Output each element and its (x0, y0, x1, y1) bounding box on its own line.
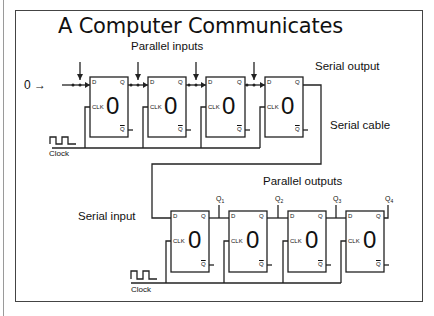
ff-tx3-qbar: Q (237, 126, 242, 132)
ff-tx4-d: D (267, 79, 271, 85)
ff-tx2-state: 0 (164, 92, 177, 120)
ff-tx1-d: D (92, 79, 96, 85)
ff-rx3-state: 0 (305, 226, 318, 254)
ff-rx3-qbar: Q (318, 261, 323, 267)
ff-rx2-d: D (231, 213, 235, 219)
ff-tx4-q: Q (295, 79, 300, 85)
ff-tx3-clk: CLK (208, 104, 220, 110)
ff-rx3-clk: CLK (290, 238, 302, 244)
ff-rx1-state: 0 (188, 226, 201, 254)
ff-rx2-q: Q (259, 213, 264, 219)
ff-rx2-qbar: Q (259, 261, 264, 267)
output-q3: Q3 (333, 195, 341, 204)
ff-rx3-q: Q (318, 213, 323, 219)
ff-rx2-state: 0 (246, 226, 259, 254)
ff-tx1-qbar: Q (120, 126, 125, 132)
ff-rx1-qbar: Q (201, 261, 206, 267)
output-q2: Q2 (275, 195, 283, 204)
ff-tx3-state: 0 (222, 92, 235, 120)
ff-rx1-q: Q (201, 213, 206, 219)
ff-rx4-state: 0 (363, 226, 376, 254)
ff-tx4-clk: CLK (267, 104, 279, 110)
ff-rx1-clk: CLK (173, 238, 185, 244)
ff-rx4-d: D (348, 213, 352, 219)
ff-tx2-d: D (150, 79, 154, 85)
ff-rx1-d: D (173, 213, 177, 219)
ff-tx1-clk: CLK (92, 104, 104, 110)
output-q1: Q1 (216, 195, 224, 204)
ff-rx4-clk: CLK (348, 238, 360, 244)
ff-tx3-d: D (208, 79, 212, 85)
ff-rx3-d: D (290, 213, 294, 219)
ff-rx2-clk: CLK (231, 238, 243, 244)
ff-tx1-state: 0 (106, 92, 119, 120)
ff-tx4-qbar: Q (295, 126, 300, 132)
shift-register-diagram (0, 0, 434, 316)
ff-rx4-qbar: Q (376, 261, 381, 267)
ff-tx3-q: Q (237, 79, 242, 85)
ff-tx2-clk: CLK (150, 104, 162, 110)
ff-tx2-qbar: Q (178, 126, 183, 132)
ff-tx4-state: 0 (281, 92, 294, 120)
clock-waveform-top (50, 137, 76, 144)
ff-tx1-q: Q (120, 79, 125, 85)
ff-tx2-q: Q (178, 79, 183, 85)
ff-rx4-q: Q (376, 213, 381, 219)
output-q4: Q4 (385, 195, 393, 204)
clock-waveform-bottom (131, 271, 157, 279)
